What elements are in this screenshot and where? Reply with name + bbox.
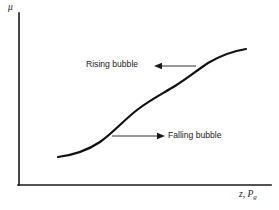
falling-bubble-arrowhead bbox=[157, 133, 165, 139]
x-axis-label: z, Pg bbox=[239, 190, 257, 201]
x-axis-label-subscript: g bbox=[253, 193, 257, 201]
rising-bubble-annotation-label: Rising bubble bbox=[86, 60, 138, 69]
figure-container: μ z, Pg Rising bubble Falling bubble bbox=[0, 0, 279, 210]
falling-bubble-annotation-label: Falling bubble bbox=[168, 131, 222, 140]
y-axis-label: μ bbox=[8, 3, 13, 13]
plot-canvas bbox=[0, 0, 279, 210]
rising-bubble-arrowhead bbox=[154, 63, 162, 69]
